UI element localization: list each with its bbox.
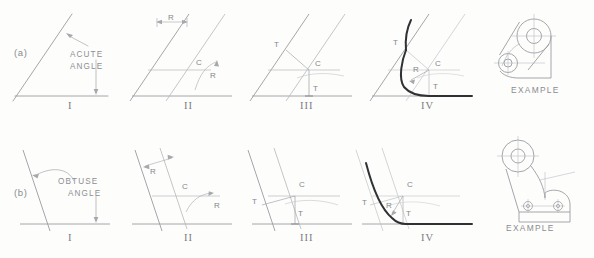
row-label-b: (b) [14,188,27,198]
acute-angle-note-line2: ANGLE [70,63,103,72]
example-label-a: EXAMPLE [511,86,560,95]
mark-a4-tangent-upper: T [393,39,398,47]
mark-a4-radius: R [413,66,419,74]
mark-a2-center: C [196,59,202,67]
mark-a4-tangent-lower: T [433,83,438,91]
step-numeral-a-1: I [68,100,73,111]
mark-b3-tangent-lower: T [298,210,303,218]
mark-b4-tangent-upper: T [362,199,367,207]
step-numeral-b-3: III [300,232,314,243]
mark-b4-center: C [407,181,413,189]
row-a-step-3 [250,14,352,101]
mark-a3-tangent-upper: T [274,41,279,49]
step-numeral-a-3: III [300,100,314,111]
step-numeral-a-4: IV [421,100,434,111]
mark-b2-radius-top: R [150,168,156,176]
step-numeral-b-4: IV [421,232,434,243]
mark-b2-center: C [182,183,188,191]
acute-angle-note-line1: ACUTE [70,51,103,60]
row-b-step-3 [248,148,352,231]
row-a-step-2 [130,14,232,101]
step-numeral-b-2: II [184,232,193,243]
mark-b3-tangent-upper: T [252,198,257,206]
row-a-example [494,14,556,78]
mark-a3-tangent-lower: T [313,85,318,93]
mark-a2-radius-bottom: R [210,72,216,80]
mark-a2-radius-top: R [168,14,174,22]
mark-b3-center: C [299,181,305,189]
row-a-step-4 [370,14,472,101]
obtuse-angle-note-line1: OBTUSE [58,178,98,187]
row-b-step-4 [356,148,472,231]
row-label-a: (a) [14,48,27,58]
mark-a3-center: C [315,60,321,68]
figure-sheet: (a) ACUTE ANGLE I II III IV R C R T C T … [0,0,594,258]
row-b-example [497,136,575,222]
mark-b2-radius-bottom: R [214,202,220,210]
figure-linework [0,0,594,258]
step-numeral-b-1: I [68,232,73,243]
mark-b4-tangent-lower: T [406,210,411,218]
mark-a4-center: C [435,60,441,68]
step-numeral-a-2: II [184,100,193,111]
mark-b4-radius: R [386,202,392,210]
example-label-b: EXAMPLE [506,224,555,233]
obtuse-angle-note-line2: ANGLE [68,190,101,199]
